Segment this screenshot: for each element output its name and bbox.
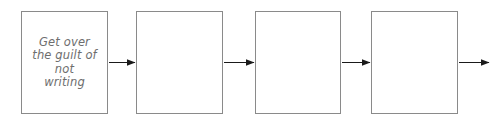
flow-node-1[interactable]: Get over the guilt of not writing xyxy=(21,11,108,114)
flow-node-4[interactable] xyxy=(371,11,458,114)
flow-node-3[interactable] xyxy=(255,11,341,114)
flowchart-diagram: Get over the guilt of not writing xyxy=(0,0,503,124)
flow-node-1-label: Get over the guilt of not writing xyxy=(22,36,107,90)
flow-node-2[interactable] xyxy=(136,11,223,114)
